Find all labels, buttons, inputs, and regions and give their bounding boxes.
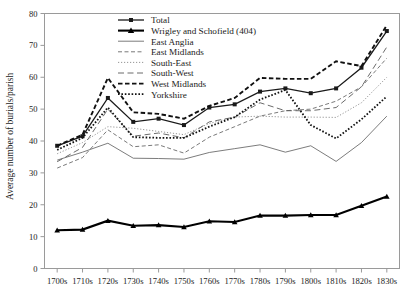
x-tick-label-1760s: 1760s: [199, 276, 220, 286]
y-axis: 01020304050607080: [29, 9, 45, 274]
x-tick-label-1790s: 1790s: [275, 276, 296, 286]
x-tick-label-1800s: 1800s: [300, 276, 321, 286]
legend-item-east-midlands[interactable]: East Midlands: [118, 47, 204, 57]
y-tick-label-40: 40: [29, 136, 38, 146]
data-point-marker: [385, 29, 389, 33]
legend-label: Wrigley and Schofield (404): [151, 26, 256, 36]
data-point-marker: [334, 86, 338, 90]
x-tick-label-1740s: 1740s: [148, 276, 169, 286]
series-line-west-midlands: [57, 25, 387, 145]
chart-figure: Average number of burials/parish 0102030…: [0, 0, 415, 293]
legend-item-west-midlands[interactable]: West Midlands: [118, 79, 207, 89]
legend-label: South-East: [151, 58, 192, 68]
x-axis: 1700s1710s1720s1730s1740s1750s1760s1770s…: [47, 269, 398, 286]
x-tick-label-1700s: 1700s: [47, 276, 68, 286]
x-tick-label-1830s: 1830s: [377, 276, 398, 286]
chart-legend: TotalWrigley and Schofield (404)East Ang…: [118, 15, 256, 99]
x-tick-label-1820s: 1820s: [351, 276, 372, 286]
series-line-east-midlands: [57, 58, 387, 168]
data-point-marker: [131, 120, 135, 124]
legend-square-marker: [129, 18, 133, 22]
x-tick-label-1720s: 1720s: [98, 276, 119, 286]
legend-item-south-east[interactable]: South-East: [118, 58, 192, 68]
x-tick-label-1710s: 1710s: [72, 276, 93, 286]
series-layer: [54, 25, 389, 232]
legend-item-total[interactable]: Total: [118, 15, 170, 25]
y-tick-label-20: 20: [29, 200, 38, 210]
y-tick-label-70: 70: [29, 40, 38, 50]
y-axis-title: Average number of burials/parish: [5, 73, 15, 200]
legend-label: East Midlands: [151, 47, 204, 57]
y-tick-label-30: 30: [29, 168, 38, 178]
data-point-marker: [157, 117, 161, 121]
y-tick-label-0: 0: [33, 264, 37, 274]
x-tick-label-1730s: 1730s: [123, 276, 144, 286]
series-line-wrigley-and-schofield-404: [57, 196, 387, 230]
x-tick-label-1810s: 1810s: [326, 276, 347, 286]
legend-item-south-west[interactable]: South-West: [118, 68, 194, 78]
series-line-south-west: [57, 47, 387, 162]
x-tick-label-1770s: 1770s: [224, 276, 245, 286]
x-tick-label-1780s: 1780s: [250, 276, 271, 286]
legend-item-wrigley-and-schofield-404[interactable]: Wrigley and Schofield (404): [118, 26, 256, 36]
data-point-marker: [258, 90, 262, 94]
legend-item-east-anglia[interactable]: East Anglia: [118, 37, 194, 47]
x-tick-label-1750s: 1750s: [174, 276, 195, 286]
legend-label: Yorkshire: [151, 90, 187, 100]
y-tick-label-50: 50: [29, 104, 38, 114]
series-line-east-anglia: [57, 116, 387, 161]
legend-label: Total: [151, 15, 170, 25]
data-point-marker: [182, 123, 186, 127]
y-tick-label-10: 10: [29, 232, 38, 242]
legend-label: West Midlands: [151, 79, 207, 89]
legend-label: East Anglia: [151, 37, 194, 47]
y-tick-label-60: 60: [29, 72, 38, 82]
data-point-marker: [233, 102, 237, 106]
y-tick-label-80: 80: [29, 9, 38, 19]
plot-frame: [45, 14, 400, 269]
legend-item-yorkshire[interactable]: Yorkshire: [118, 90, 187, 100]
legend-label: South-West: [151, 68, 194, 78]
burials-per-parish-line-chart: Average number of burials/parish 0102030…: [0, 0, 415, 293]
data-point-marker: [106, 96, 110, 100]
data-point-marker: [309, 91, 313, 95]
